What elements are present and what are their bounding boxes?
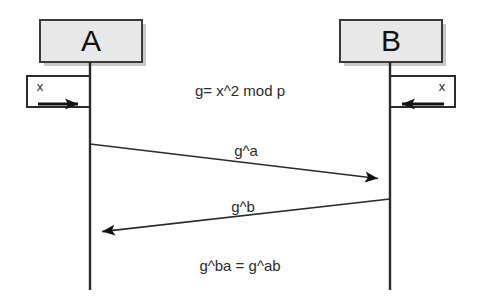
actor-b[interactable]: B	[340, 20, 446, 66]
message-g-a[interactable]: g^a	[90, 142, 378, 179]
input-box-b[interactable]: x	[390, 76, 455, 107]
actor-a-label: A	[81, 24, 101, 57]
note-shared-secret: g^ba = g^ab	[199, 257, 280, 274]
actor-b-label: B	[381, 24, 401, 57]
message-g-b-label: g^b	[231, 198, 255, 215]
diagram-svg: A B x x g= x^2 mod p g^a	[0, 0, 478, 307]
input-box-b-label: x	[439, 79, 446, 94]
message-g-a-label: g^a	[234, 142, 258, 159]
input-box-b-outline	[390, 76, 455, 107]
input-box-a-label: x	[37, 79, 44, 94]
actor-a[interactable]: A	[40, 20, 146, 66]
input-box-a[interactable]: x	[27, 76, 90, 107]
sequence-diagram-canvas: A B x x g= x^2 mod p g^a	[0, 0, 478, 307]
message-g-b[interactable]: g^b	[102, 198, 390, 232]
note-generator: g= x^2 mod p	[195, 82, 285, 99]
